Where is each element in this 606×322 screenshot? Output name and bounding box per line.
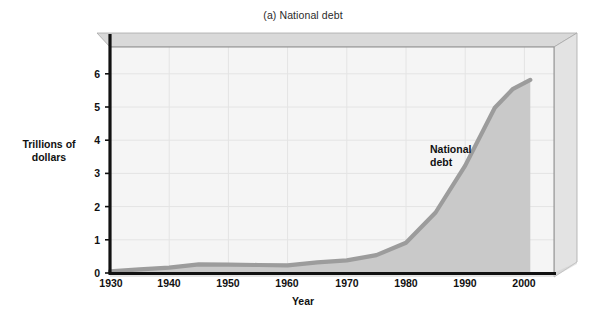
ytick-label-1: 1 [74,234,100,246]
ytick-label-5: 5 [74,101,100,113]
ytick-label-4: 4 [74,134,100,146]
xtick-label-1960: 1960 [264,277,310,289]
xtick-label-1980: 1980 [383,277,429,289]
xtick-label-1930: 1930 [88,277,134,289]
ytick-label-2: 2 [74,201,100,213]
xtick-label-1940: 1940 [146,277,192,289]
ytick-label-6: 6 [74,68,100,80]
series-annotation-line-2: debt [430,156,471,169]
series-annotation-line-1: National [430,143,471,156]
xtick-label-1950: 1950 [205,277,251,289]
ytick-label-3: 3 [74,167,100,179]
slab-top-face [97,33,577,47]
series-annotation-national-debt: National debt [430,143,471,169]
xtick-label-1970: 1970 [324,277,370,289]
slab-right-face [554,33,577,277]
chart-figure: (a) National debt Trillions of dollars Y… [0,0,606,322]
xtick-label-1990: 1990 [442,277,488,289]
xtick-label-2000: 2000 [501,277,547,289]
